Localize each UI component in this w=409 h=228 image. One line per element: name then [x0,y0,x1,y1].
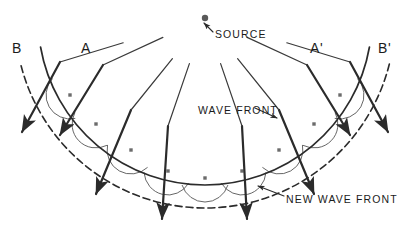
ray-b-left-tail [60,43,123,62]
source-label: SOURCE [215,28,267,40]
ray-b-right [350,62,388,132]
wave-front-point [94,122,97,125]
ray-inner-right-tail [221,64,242,126]
figure-canvas: B A A' B' SOURCE WAVE FRONT NEW WAVE FRO… [0,0,409,228]
wave-front-point [277,148,280,151]
ray-label-a-right: A' [310,40,323,56]
wave-front-point [312,122,315,125]
wavelet-arc [182,185,228,202]
wavelet-arc [72,113,107,148]
ray-mid-left-tail [131,59,172,110]
ray-mid-right [279,110,314,194]
wavelet-arc [107,145,147,174]
wave-front-point [129,148,132,151]
wave-front-point [338,93,341,96]
ray-mid-right-tail [238,59,279,110]
wave-front-point [203,176,206,179]
wavelet-arc [335,79,364,119]
ray-label-a-left: A [81,40,91,56]
wave-front-label: WAVE FRONT [198,104,278,116]
wave-front-point [68,93,71,96]
ray-a-left-tail [103,37,163,65]
source-leader-arrow [204,23,213,32]
ray-b-left [22,62,60,132]
wavelet-arc [46,79,75,119]
ray-inner-left-tail [168,64,189,126]
source-point [202,15,208,21]
wavelet-arc [263,145,303,174]
ray-a-right-tail [247,37,307,65]
ray-label-b-left: B [12,40,22,56]
wavelet-arc [303,113,338,148]
new-wave-front-arc [21,64,390,208]
new-wave_front-leader-arrow [258,186,284,196]
new-wave-front-label: NEW WAVE FRONT [286,193,398,205]
wave-front-point [240,169,243,172]
ray-label-b-right: B' [378,40,391,56]
wave-front-point [166,169,169,172]
ray-mid-left [96,110,131,194]
